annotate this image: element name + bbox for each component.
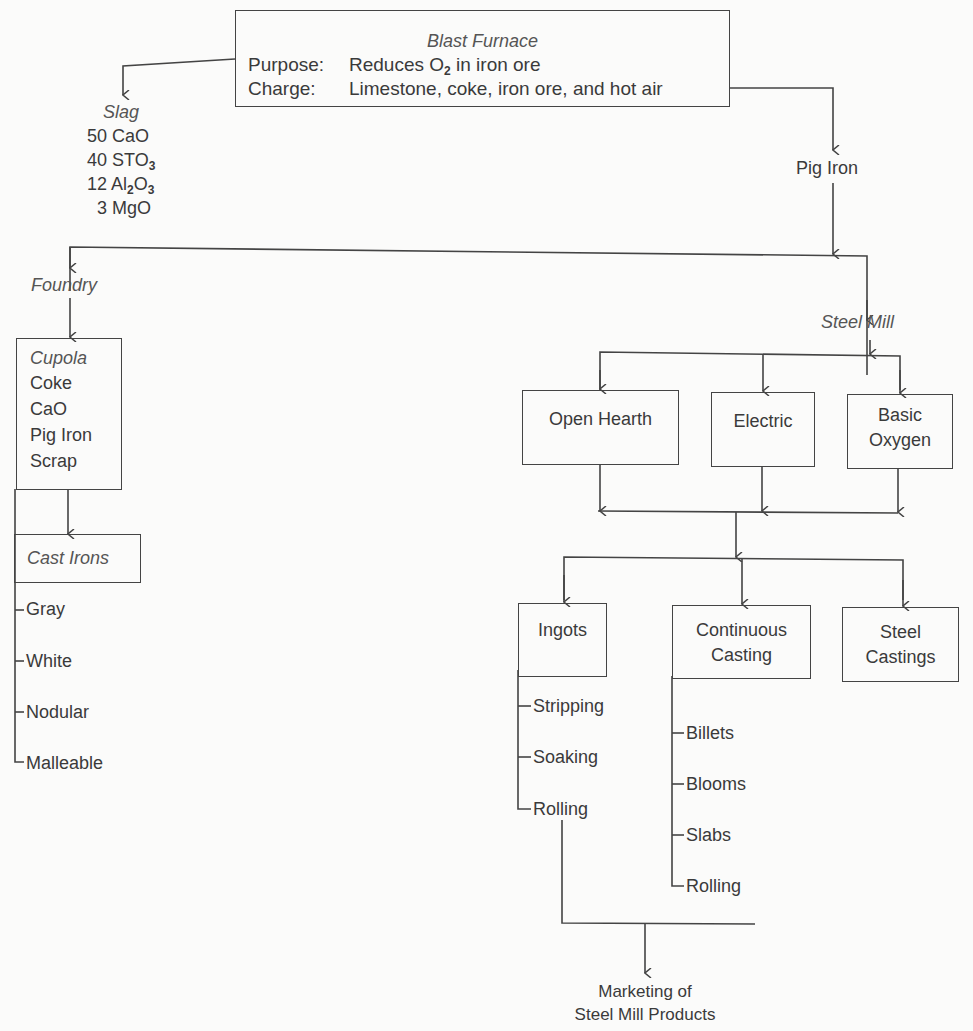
- slag-item-mgo: 3 MgO: [97, 196, 151, 220]
- casting-continuous: Continuous Casting: [672, 605, 811, 679]
- cast-iron-type: Nodular: [26, 700, 89, 724]
- pig-iron-label: Pig Iron: [796, 156, 858, 180]
- continuous-step: Billets: [686, 721, 734, 745]
- ingot-step: Rolling: [533, 797, 588, 821]
- charge-label: Charge:: [248, 77, 316, 101]
- furnace-electric: Electric: [711, 392, 815, 467]
- cast-iron-type: Gray: [26, 597, 65, 621]
- cast-irons-box: Cast Irons: [14, 534, 141, 583]
- cupola-title: Cupola: [30, 346, 87, 370]
- purpose-label: Purpose:: [248, 53, 324, 77]
- slag-item-cao: 50 CaO: [87, 124, 149, 148]
- continuous-step: Rolling: [686, 874, 741, 898]
- cupola-item: Coke: [30, 371, 72, 395]
- cast-iron-type: White: [26, 649, 72, 673]
- blast-furnace-title: Blast Furnace: [236, 29, 729, 53]
- slag-item-al2o3: 12 Al2O3: [87, 172, 154, 196]
- casting-ingots: Ingots: [518, 603, 607, 677]
- connector-furnace-to-pig-iron: [729, 88, 833, 150]
- cupola-item: CaO: [30, 397, 67, 421]
- continuous-step: Blooms: [686, 772, 746, 796]
- slag-item-sto3: 40 STO3: [87, 148, 155, 172]
- blast-furnace-box: Blast Furnace Purpose: Reduces O2 in iro…: [235, 10, 730, 107]
- charge-value: Limestone, coke, iron ore, and hot air: [349, 77, 663, 101]
- ingot-step: Stripping: [533, 694, 604, 718]
- slag-title: Slag: [103, 100, 139, 124]
- continuous-step: Slabs: [686, 823, 731, 847]
- connector-furnace-to-slag: [123, 59, 235, 95]
- furnace-basic-oxygen: Basic Oxygen: [847, 394, 953, 469]
- steel-mill-label: Steel Mill: [821, 310, 894, 334]
- purpose-value: Reduces O2 in iron ore: [349, 53, 541, 77]
- casting-steel-castings: Steel Castings: [842, 607, 959, 682]
- cupola-item: Pig Iron: [30, 423, 92, 447]
- cupola-box: Cupola Coke CaO Pig Iron Scrap: [16, 338, 122, 490]
- foundry-label: Foundry: [31, 273, 97, 297]
- furnace-open-hearth: Open Hearth: [522, 390, 679, 465]
- cast-iron-type: Malleable: [26, 751, 103, 775]
- marketing-line2: Steel Mill Products: [545, 1003, 745, 1027]
- connector-split-line: [70, 247, 867, 375]
- cast-irons-title: Cast Irons: [27, 546, 109, 570]
- cupola-item: Scrap: [30, 449, 77, 473]
- steel-production-flowchart: Blast Furnace Purpose: Reduces O2 in iro…: [0, 0, 973, 1031]
- ingot-step: Soaking: [533, 745, 598, 769]
- marketing-line1: Marketing of: [545, 980, 745, 1004]
